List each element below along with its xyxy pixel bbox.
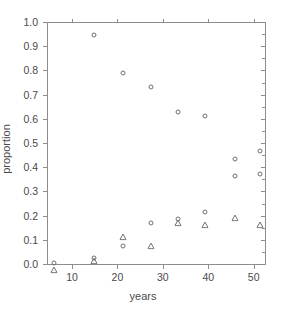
x-tick-mark	[163, 265, 164, 269]
y-axis-right-line	[265, 22, 266, 265]
y-tick-mark	[43, 95, 47, 96]
data-point-triangle	[202, 215, 209, 222]
x-tick-mark	[254, 265, 255, 269]
x-tick-mark-top	[163, 19, 164, 23]
x-tick-mark-top	[117, 19, 118, 23]
data-point-circle	[203, 114, 208, 119]
data-point-triangle	[120, 227, 127, 234]
y-minor-tick-right	[262, 34, 265, 35]
y-tick-label: 0.8	[23, 65, 38, 76]
data-point-circle	[257, 149, 262, 154]
y-minor-tick-right	[262, 131, 265, 132]
y-tick-mark-right	[261, 264, 265, 265]
y-axis-line	[47, 22, 48, 265]
x-tick-mark-top	[72, 19, 73, 23]
y-tick-label: 0.6	[23, 114, 38, 125]
y-tick-mark	[43, 70, 47, 71]
data-point-circle	[175, 217, 180, 222]
y-tick-label: 0.4	[23, 162, 38, 173]
x-tick-mark	[72, 265, 73, 269]
data-point-circle	[148, 220, 153, 225]
y-tick-mark	[43, 119, 47, 120]
y-tick-label: 0.5	[23, 138, 38, 149]
x-tick-label: 10	[66, 272, 78, 283]
x-axis-title: years	[0, 290, 286, 302]
y-minor-tick-right	[262, 83, 265, 84]
y-tick-mark	[43, 167, 47, 168]
data-point-circle	[121, 244, 126, 249]
data-point-circle	[233, 156, 238, 161]
data-point-circle	[203, 209, 208, 214]
y-tick-mark	[43, 22, 47, 23]
y-tick-mark	[43, 46, 47, 47]
y-minor-tick-right	[262, 228, 265, 229]
y-minor-tick-right	[262, 252, 265, 253]
y-tick-label: 1.0	[23, 17, 38, 28]
x-tick-mark	[117, 265, 118, 269]
y-tick-label: 0.1	[23, 235, 38, 246]
y-tick-label: 0.7	[23, 89, 38, 100]
x-tick-label: 50	[248, 272, 260, 283]
y-tick-mark-right	[261, 240, 265, 241]
data-point-circle	[175, 109, 180, 114]
x-tick-mark-top	[254, 19, 255, 23]
x-tick-label: 30	[157, 272, 169, 283]
y-tick-mark	[43, 191, 47, 192]
data-point-triangle	[50, 259, 57, 266]
y-tick-mark-right	[261, 216, 265, 217]
x-tick-label: 40	[202, 272, 214, 283]
y-tick-mark-right	[261, 46, 265, 47]
x-tick-mark	[208, 265, 209, 269]
x-tick-mark-top	[208, 19, 209, 23]
data-point-circle	[121, 70, 126, 75]
y-tick-mark-right	[261, 143, 265, 144]
y-tick-label: 0.3	[23, 186, 38, 197]
data-point-circle	[257, 172, 262, 177]
x-tick-label: 20	[112, 272, 124, 283]
y-tick-label: 0.9	[23, 41, 38, 52]
y-minor-tick-right	[262, 155, 265, 156]
y-minor-tick-right	[262, 204, 265, 205]
scatter-plot-figure: 0.00.10.20.30.40.50.60.70.80.91.01020304…	[0, 0, 286, 317]
y-tick-mark-right	[261, 70, 265, 71]
y-tick-mark-right	[261, 191, 265, 192]
y-tick-mark-right	[261, 167, 265, 168]
data-point-circle	[148, 84, 153, 89]
y-axis-title: proportion	[0, 124, 12, 174]
y-minor-tick-right	[262, 179, 265, 180]
x-axis-top-line	[47, 22, 266, 23]
y-tick-mark-right	[261, 95, 265, 96]
y-tick-mark	[43, 216, 47, 217]
y-tick-mark-right	[261, 22, 265, 23]
data-point-circle	[91, 255, 96, 260]
data-point-triangle	[232, 207, 239, 214]
data-point-triangle	[147, 235, 154, 242]
data-point-triangle	[90, 251, 97, 258]
y-tick-mark-right	[261, 119, 265, 120]
y-tick-label: 0.0	[23, 259, 38, 270]
y-minor-tick-right	[262, 107, 265, 108]
y-tick-mark	[43, 240, 47, 241]
x-axis-line	[47, 264, 266, 265]
y-tick-mark	[43, 143, 47, 144]
data-point-circle	[91, 33, 96, 38]
data-point-triangle	[174, 212, 181, 219]
y-tick-label: 0.2	[23, 210, 38, 221]
y-tick-mark	[43, 264, 47, 265]
y-minor-tick-right	[262, 58, 265, 59]
data-point-circle	[233, 173, 238, 178]
